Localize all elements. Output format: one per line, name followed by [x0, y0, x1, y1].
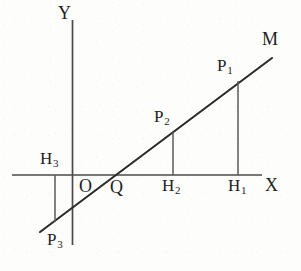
q-point-label: Q	[110, 178, 123, 196]
p2-label-base: P	[154, 107, 164, 126]
p3-label: P3	[47, 231, 62, 248]
figure-canvas	[0, 0, 301, 271]
p1-label-subscript: 1	[227, 64, 233, 76]
x-axis-label: X	[265, 176, 278, 194]
y-axis-label: Y	[58, 4, 71, 22]
p1-label: P1	[217, 57, 232, 74]
p1-label-base: P	[217, 56, 227, 75]
h1-label: H1	[228, 177, 246, 194]
p3-label-base: P	[47, 230, 57, 249]
h2-label-subscript: 2	[175, 184, 181, 196]
m-ray-label: M	[262, 30, 278, 48]
h2-label-base: H	[162, 176, 174, 195]
h2-label: H2	[162, 177, 180, 194]
h1-label-subscript: 1	[241, 184, 247, 196]
p3-label-subscript: 3	[57, 238, 63, 250]
h1-label-base: H	[228, 176, 240, 195]
h3-label-base: H	[40, 149, 52, 168]
line-m-ray	[40, 58, 272, 232]
h3-label-subscript: 3	[53, 157, 59, 169]
p2-label: P2	[154, 108, 169, 125]
h3-label: H3	[40, 150, 58, 167]
geometry-figure: Y X O Q M P1 P2 P3 H1 H2 H3	[0, 0, 301, 271]
p2-label-subscript: 2	[164, 115, 170, 127]
origin-label: O	[79, 177, 92, 195]
